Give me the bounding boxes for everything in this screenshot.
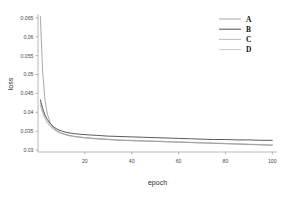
y-tick-label: 0.055 xyxy=(21,53,34,59)
y-tick-label: 0.05 xyxy=(23,71,33,77)
series-line-a xyxy=(40,16,272,145)
chart-canvas: 0.0650.060.0550.050.0450.040.0350.032040… xyxy=(0,0,293,198)
x-tick-label: 80 xyxy=(223,158,229,164)
y-tick-label: 0.04 xyxy=(23,109,33,115)
x-tick-label: 20 xyxy=(82,158,88,164)
legend-label-a: A xyxy=(246,15,252,24)
y-tick-label: 0.035 xyxy=(21,128,34,134)
legend-label-c: C xyxy=(246,35,251,44)
series-group xyxy=(40,16,272,145)
legend-label-d: D xyxy=(246,45,252,54)
series-line-d xyxy=(40,103,272,145)
y-tick-label: 0.065 xyxy=(21,15,34,21)
y-tick-label: 0.06 xyxy=(23,34,33,40)
x-tick-label: 60 xyxy=(176,158,182,164)
series-line-c xyxy=(40,106,272,146)
loss-chart: 0.0650.060.0550.050.0450.040.0350.032040… xyxy=(0,0,293,198)
y-axis-title: loss xyxy=(7,77,14,90)
series-line-b xyxy=(40,100,272,140)
y-tick-label: 0.03 xyxy=(23,147,33,153)
legend-label-b: B xyxy=(246,25,251,34)
x-tick-label: 100 xyxy=(268,158,277,164)
x-axis-title: epoch xyxy=(148,179,167,187)
x-tick-label: 40 xyxy=(129,158,135,164)
y-tick-label: 0.045 xyxy=(21,90,34,96)
